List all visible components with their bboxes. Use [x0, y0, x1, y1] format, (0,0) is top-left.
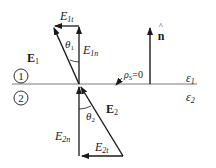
e1-label: E1 [27, 51, 39, 66]
e1t-label: E1t [59, 9, 74, 24]
region-1-label: 1 [18, 70, 24, 82]
theta1-arc [70, 60, 79, 62]
theta2-label: θ2 [86, 110, 95, 124]
e1-arrow [54, 28, 79, 84]
normal-label: n [158, 29, 165, 43]
e2t-label: E2t [94, 140, 109, 155]
theta1-label: θ1 [65, 38, 74, 52]
e2-label: E2 [106, 102, 118, 117]
epsilon-1-label: ε1 [186, 71, 195, 86]
e2n-label: E2n [54, 129, 70, 144]
epsilon-2-label: ε2 [186, 90, 195, 105]
boundary-diagram: 1 2 ε1 ε2 ρS=0 ^ n E1t E1n E1 θ1 E2 θ2 E… [0, 0, 216, 168]
region-2-label: 2 [18, 92, 24, 104]
e1n-label: E1n [82, 43, 98, 58]
theta2-arc [79, 106, 91, 109]
surface-charge-label: ρS=0 [123, 69, 143, 82]
